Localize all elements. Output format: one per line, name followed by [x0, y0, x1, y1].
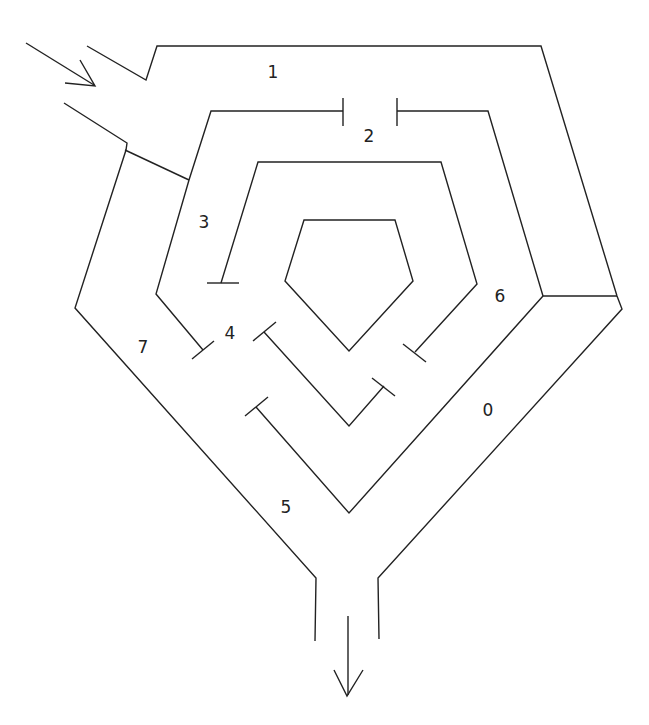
wall-connector-left: [125, 150, 189, 180]
outer-wall-upper: [87, 46, 622, 639]
region-label-6: 6: [495, 286, 506, 306]
region-label-5: 5: [281, 497, 292, 517]
gate-tick: [245, 397, 268, 416]
third-ring: [221, 162, 477, 352]
region-label-7: 7: [138, 337, 149, 357]
exit-arrow-icon: [334, 616, 363, 696]
region-label-1: 1: [268, 62, 279, 82]
gate-tick: [403, 344, 426, 362]
second-ring-right: [397, 111, 617, 296]
center-pentagon: [285, 220, 413, 351]
region-label-0: 0: [483, 400, 494, 420]
region-label-2: 2: [364, 126, 375, 146]
region-label-3: 3: [199, 212, 210, 232]
gate-tick: [372, 378, 395, 396]
inner-v-wall: [264, 332, 384, 426]
maze-diagram: 0 1 2 3 4 5 6 7: [0, 0, 649, 725]
region-label-4: 4: [225, 323, 236, 343]
gate-tick: [192, 341, 214, 359]
gate-tick: [253, 322, 276, 341]
entry-arrow-icon: [26, 43, 95, 86]
lower-v-wall: [256, 296, 543, 513]
outer-wall-left: [64, 103, 316, 641]
